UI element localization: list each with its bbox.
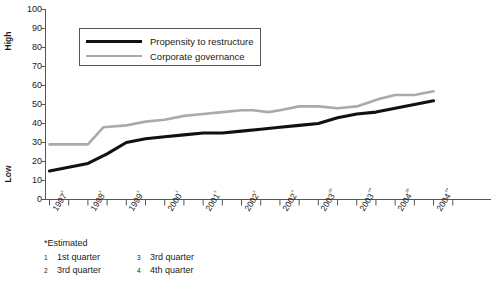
y-axis-tick-label: 60 bbox=[18, 81, 42, 90]
legend: Propensity to restructure Corporate gove… bbox=[79, 28, 261, 66]
footnote-marker: 1 bbox=[44, 251, 55, 265]
legend-swatch-black bbox=[86, 40, 142, 43]
legend-item-corporate-governance: Corporate governance bbox=[86, 49, 245, 63]
series-line-corporate-governance bbox=[50, 91, 434, 144]
y-axis-tick-label: 20 bbox=[18, 157, 42, 166]
legend-item-propensity-to-restructure: Propensity to restructure bbox=[86, 34, 254, 48]
y-axis-tick-label: 50 bbox=[18, 100, 42, 109]
y-axis-tick-label: 100 bbox=[18, 5, 42, 14]
y-axis-tick-label: 80 bbox=[18, 43, 42, 52]
y-axis-tick-label: 70 bbox=[18, 62, 42, 71]
legend-swatch-gray bbox=[86, 55, 142, 58]
y-axis-tick-label: 90 bbox=[18, 24, 42, 33]
y-axis-ticks bbox=[42, 10, 46, 200]
chart-container: High Low 1009080706050403020100 1997¹199… bbox=[0, 0, 498, 289]
y-axis-tick-labels: 1009080706050403020100 bbox=[0, 0, 42, 289]
y-axis-tick-label: 10 bbox=[18, 176, 42, 185]
footnote-marker: 4 bbox=[137, 264, 148, 278]
footnote-text: 4th quarter bbox=[150, 264, 194, 277]
footnote-text: 3rd quarter bbox=[57, 264, 135, 277]
y-axis-tick-label: 40 bbox=[18, 119, 42, 128]
footnotes-block: *Estimated 11st quarter33rd quarter23rd … bbox=[44, 237, 194, 278]
y-axis-tick-label: 30 bbox=[18, 138, 42, 147]
footnote-grid: 11st quarter33rd quarter23rd quarter44th… bbox=[44, 251, 194, 278]
legend-label-corporate-governance: Corporate governance bbox=[150, 51, 245, 62]
footnote-estimated: *Estimated bbox=[44, 237, 194, 250]
footnote-marker: 2 bbox=[44, 264, 55, 278]
footnote-text: 3rd quarter bbox=[150, 251, 194, 264]
y-axis-tick-label: 0 bbox=[18, 195, 42, 204]
legend-label-propensity-to-restructure: Propensity to restructure bbox=[150, 36, 254, 47]
footnote-marker: 3 bbox=[137, 251, 148, 265]
footnote-text: 1st quarter bbox=[57, 251, 135, 264]
